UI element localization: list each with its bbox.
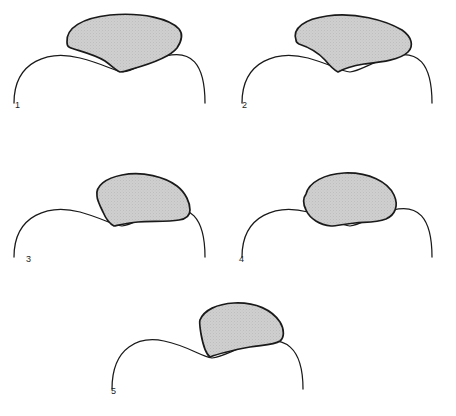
panel-label-5: 5 [111,386,116,396]
panel-label-2: 2 [242,100,247,110]
panel-label-3: 3 [26,254,31,264]
figure-container: 1 2 3 4 5 [0,0,456,416]
panel-label-1: 1 [15,100,20,110]
panel-label-4: 4 [239,254,244,264]
figure-canvas: 1 2 3 4 5 [0,0,456,416]
